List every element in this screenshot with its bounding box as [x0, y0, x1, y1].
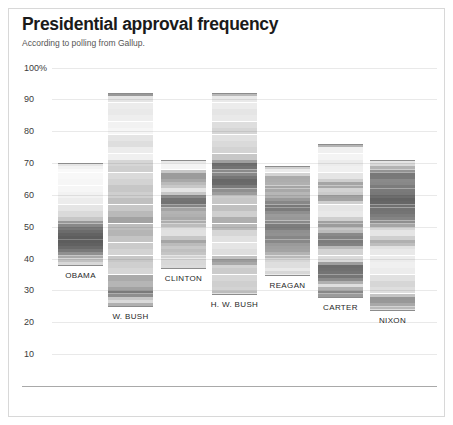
president-label-carter: CARTER [323, 303, 358, 312]
density-band [318, 166, 363, 172]
column-min-cap [265, 275, 310, 276]
density-band [108, 166, 153, 172]
density-band [318, 281, 363, 287]
density-band [212, 109, 257, 115]
density-column-reagan[interactable] [265, 166, 310, 274]
density-band [212, 96, 257, 102]
y-axis-tick-10: 10 [24, 349, 64, 359]
column-min-cap [212, 294, 257, 295]
density-band [108, 141, 153, 147]
density-band [318, 243, 363, 249]
density-band [212, 211, 257, 217]
column-max-cap [108, 93, 153, 94]
density-band [108, 122, 153, 128]
density-column-h-w-bush[interactable] [212, 93, 257, 294]
density-band [318, 173, 363, 179]
density-band [108, 115, 153, 121]
density-band [108, 192, 153, 198]
density-band [108, 179, 153, 185]
density-column-nixon[interactable] [370, 160, 415, 310]
density-band [161, 163, 206, 169]
density-band [108, 173, 153, 179]
density-band [318, 147, 363, 153]
density-band [212, 268, 257, 274]
column-min-cap [58, 265, 103, 266]
density-band [318, 256, 363, 262]
density-band [58, 211, 103, 217]
density-band [318, 249, 363, 255]
density-column-obama[interactable] [58, 163, 103, 265]
president-label-reagan: REAGAN [270, 281, 306, 290]
density-band [265, 262, 310, 268]
density-band [108, 224, 153, 230]
density-band [108, 198, 153, 204]
density-band [318, 224, 363, 230]
density-band [108, 147, 153, 153]
y-axis-tick-90: 90 [24, 94, 64, 104]
density-band [370, 224, 415, 230]
density-band [370, 275, 415, 281]
density-band [108, 262, 153, 268]
y-axis-tick-80: 80 [24, 126, 64, 136]
density-band [212, 262, 257, 268]
density-column-carter[interactable] [318, 144, 363, 297]
density-band [108, 230, 153, 236]
density-band [212, 141, 257, 147]
density-column-clinton[interactable] [161, 160, 206, 268]
density-band [212, 205, 257, 211]
gridline-100 [52, 68, 437, 69]
density-band [108, 236, 153, 242]
density-band [58, 166, 103, 172]
density-band [370, 243, 415, 249]
president-label-nixon: NIXON [379, 316, 406, 325]
column-max-cap [265, 166, 310, 167]
density-band [318, 205, 363, 211]
column-min-cap [318, 297, 363, 298]
density-band [212, 192, 257, 198]
density-band [108, 249, 153, 255]
president-label-clinton: CLINTON [165, 274, 202, 283]
density-band [108, 211, 153, 217]
density-band [108, 205, 153, 211]
density-band [58, 173, 103, 179]
density-band [212, 249, 257, 255]
density-band [212, 243, 257, 249]
density-band [265, 166, 310, 172]
density-band [108, 281, 153, 287]
density-band [212, 128, 257, 134]
density-band [108, 109, 153, 115]
density-band [108, 185, 153, 191]
density-band [108, 128, 153, 134]
density-band [212, 217, 257, 223]
president-label-obama: OBAMA [65, 271, 96, 280]
column-max-cap [161, 160, 206, 161]
density-band [318, 211, 363, 217]
density-band [318, 160, 363, 166]
column-max-cap [212, 93, 257, 94]
density-band [370, 268, 415, 274]
density-band [212, 224, 257, 230]
density-band [58, 205, 103, 211]
density-band [108, 256, 153, 262]
density-band [108, 275, 153, 281]
density-band [212, 122, 257, 128]
density-band [212, 198, 257, 204]
density-band [58, 179, 103, 185]
column-max-cap [370, 160, 415, 161]
column-max-cap [318, 144, 363, 145]
density-band [108, 135, 153, 141]
density-band [265, 256, 310, 262]
density-band [370, 230, 415, 236]
density-band [318, 154, 363, 160]
column-min-cap [161, 268, 206, 269]
density-band [58, 192, 103, 198]
density-band [370, 249, 415, 255]
density-column-w-bush[interactable] [108, 93, 153, 306]
density-band [370, 262, 415, 268]
density-band [161, 224, 206, 230]
density-band [212, 154, 257, 160]
density-band [212, 281, 257, 287]
y-axis-tick-30: 30 [24, 285, 64, 295]
column-max-cap [58, 163, 103, 164]
density-band [370, 287, 415, 293]
